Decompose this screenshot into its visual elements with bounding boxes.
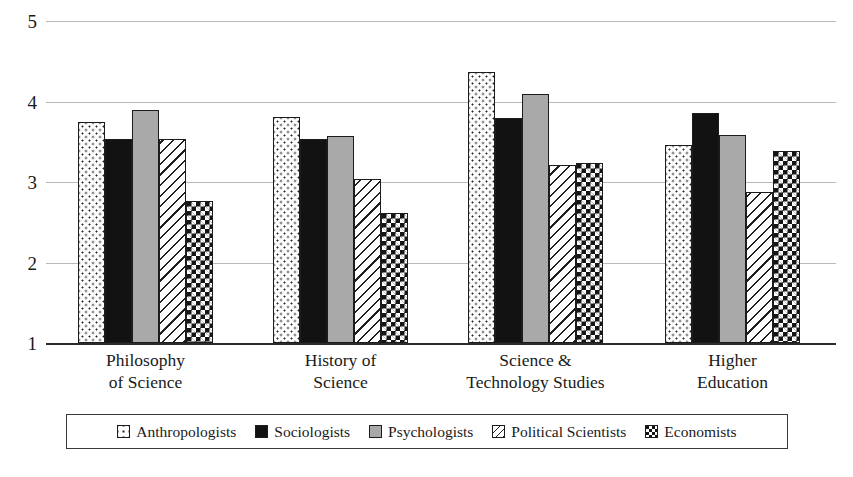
bar	[354, 179, 381, 343]
bar	[105, 139, 132, 343]
chart-legend: AnthropologistsSociologistsPsychologists…	[66, 414, 788, 449]
plot-area: 12345	[46, 21, 836, 343]
legend-swatch-icon	[255, 425, 268, 438]
x-axis-category-label: HigherEducation	[618, 349, 848, 393]
bar-group-bars	[665, 21, 800, 343]
bar	[186, 201, 213, 343]
bar	[78, 122, 105, 343]
x-axis-category-label: Science &Technology Studies	[421, 349, 651, 393]
bar	[746, 192, 773, 343]
category-label-line: Education	[618, 371, 848, 393]
bar-group	[78, 21, 213, 343]
y-axis-tick-label: 2	[28, 253, 38, 272]
bar	[273, 117, 300, 343]
y-axis-tick-label: 4	[28, 92, 38, 111]
bar-group-bars	[468, 21, 603, 343]
y-axis-tick-label: 3	[28, 173, 38, 192]
legend-label: Economists	[664, 423, 736, 441]
legend-swatch-icon	[645, 425, 658, 438]
bar	[381, 213, 408, 343]
legend-item[interactable]: Anthropologists	[117, 423, 236, 441]
bar-group-bars	[78, 21, 213, 343]
legend-item[interactable]: Political Scientists	[492, 423, 626, 441]
bar-group	[665, 21, 800, 343]
axis-baseline	[46, 343, 836, 345]
legend-label: Political Scientists	[511, 423, 626, 441]
bar-group	[273, 21, 408, 343]
bar	[692, 113, 719, 343]
category-label-line: Higher	[708, 350, 757, 370]
bar	[773, 151, 800, 343]
bar	[549, 165, 576, 343]
bar	[132, 110, 159, 343]
bar	[719, 135, 746, 343]
bar-chart: 12345 Philosophyof ScienceHistory ofScie…	[0, 0, 853, 477]
category-label-line: History of	[305, 350, 376, 370]
bar	[468, 72, 495, 343]
legend-item[interactable]: Sociologists	[255, 423, 350, 441]
bar	[159, 139, 186, 343]
legend-swatch-icon	[117, 425, 130, 438]
legend-item[interactable]: Psychologists	[369, 423, 473, 441]
bar-group	[468, 21, 603, 343]
bar	[576, 163, 603, 343]
bar	[522, 94, 549, 343]
legend-swatch-icon	[492, 425, 505, 438]
bar	[665, 145, 692, 343]
category-label-line: Technology Studies	[421, 371, 651, 393]
bar-group-bars	[273, 21, 408, 343]
category-label-line: Philosophy	[106, 350, 185, 370]
legend-item[interactable]: Economists	[645, 423, 736, 441]
legend-label: Anthropologists	[136, 423, 236, 441]
legend-label: Psychologists	[388, 423, 473, 441]
legend-label: Sociologists	[274, 423, 350, 441]
bar	[300, 139, 327, 343]
bar	[495, 118, 522, 343]
legend-swatch-icon	[369, 425, 382, 438]
y-axis-tick-label: 5	[28, 12, 38, 31]
bar	[327, 136, 354, 343]
category-label-line: Science &	[499, 350, 571, 370]
